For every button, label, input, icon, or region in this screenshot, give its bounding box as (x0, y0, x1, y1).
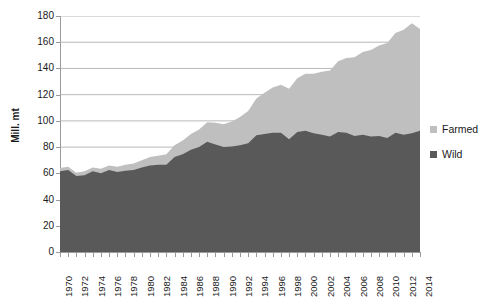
y-tick-mark (56, 95, 60, 96)
x-tick-mark (338, 253, 339, 257)
legend-item-farmed[interactable]: Farmed (430, 124, 500, 135)
x-tick-mark (85, 253, 86, 257)
x-tick-label: 2008 (375, 276, 384, 297)
x-tick-mark (273, 253, 274, 257)
x-tick-label: 1980 (146, 276, 155, 297)
x-tick-mark (125, 253, 126, 257)
x-tick-label: 2000 (309, 276, 318, 297)
x-tick-label: 1982 (162, 276, 171, 297)
x-tick-mark (60, 253, 61, 257)
y-tick-mark (56, 68, 60, 69)
y-tick-label: 120 (20, 90, 54, 100)
x-tick-label: 1978 (129, 276, 138, 297)
x-tick-mark (248, 253, 249, 257)
x-tick-mark (305, 253, 306, 257)
y-tick-label: 140 (20, 63, 54, 73)
y-tick-label: 20 (20, 221, 54, 231)
x-tick-label: 1972 (80, 276, 89, 297)
x-tick-mark (191, 253, 192, 257)
y-tick-mark (56, 121, 60, 122)
x-tick-mark (76, 253, 77, 257)
y-tick-label: 60 (20, 168, 54, 178)
y-tick-mark (56, 147, 60, 148)
x-tick-label: 1990 (228, 276, 237, 297)
x-tick-label: 1998 (293, 276, 302, 297)
legend-swatch-farmed (430, 126, 437, 133)
x-tick-label: 1970 (64, 276, 73, 297)
x-tick-mark (207, 253, 208, 257)
x-tick-mark (297, 253, 298, 257)
legend-swatch-wild (430, 151, 437, 158)
x-tick-label: 1974 (97, 276, 106, 297)
x-tick-mark (330, 253, 331, 257)
y-tick-mark (56, 200, 60, 201)
x-tick-label: 2014 (424, 276, 433, 297)
x-tick-label: 2002 (326, 276, 335, 297)
y-tick-label: 40 (20, 195, 54, 205)
legend-label-wild: Wild (442, 149, 462, 160)
y-tick-label: 180 (20, 11, 54, 21)
x-tick-mark (322, 253, 323, 257)
y-axis-tick-labels: 020406080100120140160180 (16, 16, 54, 252)
x-tick-mark (93, 253, 94, 257)
x-tick-mark (232, 253, 233, 257)
x-tick-label: 1984 (179, 276, 188, 297)
area-series-wild (60, 131, 420, 252)
x-tick-mark (117, 253, 118, 257)
x-tick-label: 2010 (391, 276, 400, 297)
y-tick-label: 80 (20, 142, 54, 152)
area-chart: Mill. mt 020406080100120140160180 197019… (0, 0, 504, 299)
x-tick-mark (101, 253, 102, 257)
x-tick-mark (412, 253, 413, 257)
x-tick-mark (289, 253, 290, 257)
x-tick-mark (109, 253, 110, 257)
x-axis-tick-labels: 1970197219741976197819801982198419861988… (60, 253, 420, 299)
x-tick-mark (363, 253, 364, 257)
x-tick-mark (371, 253, 372, 257)
x-tick-mark (240, 253, 241, 257)
x-tick-label: 1976 (113, 276, 122, 297)
series-areas (60, 23, 420, 252)
x-tick-mark (420, 253, 421, 257)
x-tick-label: 1996 (277, 276, 286, 297)
x-tick-mark (68, 253, 69, 257)
x-tick-mark (166, 253, 167, 257)
y-tick-label: 160 (20, 37, 54, 47)
x-tick-mark (224, 253, 225, 257)
x-tick-mark (199, 253, 200, 257)
plot-area (60, 16, 420, 252)
legend-item-wild[interactable]: Wild (430, 149, 500, 160)
x-tick-mark (281, 253, 282, 257)
x-tick-label: 2012 (408, 276, 417, 297)
x-tick-mark (142, 253, 143, 257)
x-tick-mark (150, 253, 151, 257)
x-tick-label: 1988 (211, 276, 220, 297)
x-tick-mark (265, 253, 266, 257)
x-tick-mark (134, 253, 135, 257)
x-tick-label: 2004 (342, 276, 351, 297)
x-tick-mark (175, 253, 176, 257)
x-tick-mark (158, 253, 159, 257)
x-tick-mark (256, 253, 257, 257)
y-tick-label: 100 (20, 116, 54, 126)
x-tick-mark (387, 253, 388, 257)
x-tick-label: 2006 (359, 276, 368, 297)
x-tick-label: 1992 (244, 276, 253, 297)
x-tick-mark (346, 253, 347, 257)
x-tick-label: 1986 (195, 276, 204, 297)
x-tick-mark (379, 253, 380, 257)
plot-svg (60, 16, 420, 252)
y-tick-mark (56, 226, 60, 227)
x-tick-label: 1994 (260, 276, 269, 297)
legend-label-farmed: Farmed (442, 124, 478, 135)
y-tick-mark (56, 173, 60, 174)
y-tick-mark (56, 252, 60, 253)
y-tick-mark (56, 42, 60, 43)
y-tick-label: 0 (20, 247, 54, 257)
x-tick-mark (355, 253, 356, 257)
y-tick-mark (56, 16, 60, 17)
x-tick-mark (183, 253, 184, 257)
chart-legend: Farmed Wild (430, 124, 500, 174)
x-tick-mark (215, 253, 216, 257)
x-tick-mark (404, 253, 405, 257)
